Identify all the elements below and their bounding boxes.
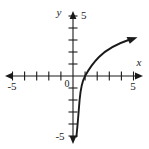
coordinate-plane-svg: y 5 x 5 -5 -5 0 <box>0 0 149 149</box>
log-curve <box>76 40 128 137</box>
x-axis-arrow-right <box>135 73 143 80</box>
y-min-tick-label: -5 <box>55 130 65 142</box>
x-axis-label: x <box>136 56 142 68</box>
y-max-tick-label: 5 <box>81 9 87 21</box>
y-axis-label: y <box>56 6 62 18</box>
log-curve-group <box>76 37 137 137</box>
x-min-tick-label: -5 <box>7 80 17 92</box>
y-axis-arrow-down <box>70 136 77 144</box>
origin-label: 0 <box>65 78 70 89</box>
graph-figure: y 5 x 5 -5 -5 0 <box>0 0 149 149</box>
y-axis-arrow-up <box>70 11 77 19</box>
x-max-tick-label: 5 <box>130 80 136 92</box>
x-axis-arrow-left <box>5 73 13 80</box>
x-axis <box>5 73 143 80</box>
